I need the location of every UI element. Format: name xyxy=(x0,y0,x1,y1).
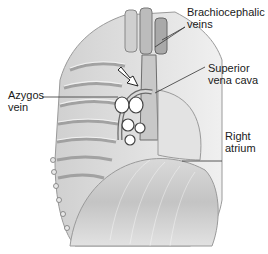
label-line: Azygos xyxy=(8,89,44,101)
thorax-illustration xyxy=(0,0,268,254)
label-line: veins xyxy=(187,18,265,30)
anatomy-figure: Brachiocephalic veins Superior vena cava… xyxy=(0,0,268,254)
label-line: Superior xyxy=(208,62,258,74)
label-azygos-vein: Azygos vein xyxy=(8,89,44,113)
label-right-atrium: Right atrium xyxy=(225,130,256,154)
label-superior-vena-cava: Superior vena cava xyxy=(208,62,258,86)
label-line: atrium xyxy=(225,142,256,154)
label-line: vena cava xyxy=(208,74,258,86)
label-line: vein xyxy=(8,101,44,113)
label-line: Brachiocephalic xyxy=(187,6,265,18)
label-brachiocephalic-veins: Brachiocephalic veins xyxy=(187,6,265,30)
label-line: Right xyxy=(225,130,256,142)
